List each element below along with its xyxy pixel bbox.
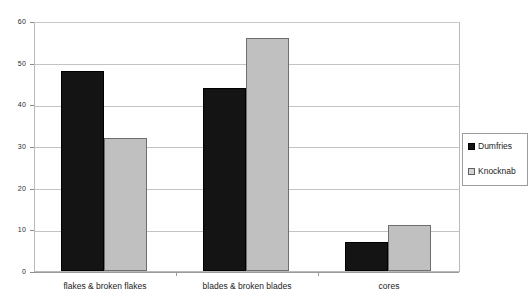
bar-dumfries-cores [345,242,388,271]
bar-knocknab-flakes [104,138,147,271]
bar-chart: 60 50 40 30 20 10 0 flakes & broken flak… [0,0,528,305]
x-tick-1 [176,272,177,276]
legend-swatch-dumfries-icon [468,143,475,150]
x-category-label-blades: blades & broken blades [176,281,318,291]
legend-label-knocknab: Knocknab [478,167,516,176]
bar-knocknab-blades [246,38,289,271]
y-tick-label-50: 50 [0,60,26,68]
chart-legend: Dumfries Knocknab [462,133,528,186]
y-tick-label-40: 40 [0,101,26,109]
y-tick-label-60: 60 [0,18,26,26]
bar-knocknab-cores [388,225,431,271]
legend-swatch-knocknab-icon [468,168,475,175]
legend-item-knocknab: Knocknab [468,167,516,176]
x-category-label-cores: cores [318,281,460,291]
gridline-0 [35,272,459,273]
legend-label-dumfries: Dumfries [478,142,512,151]
y-tick-label-0: 0 [0,268,26,276]
bar-dumfries-flakes [61,71,104,271]
y-tick-label-10: 10 [0,226,26,234]
y-tick-label-20: 20 [0,185,26,193]
plot-area [34,22,460,272]
x-category-label-flakes: flakes & broken flakes [34,281,176,291]
x-tick-2 [318,272,319,276]
legend-item-dumfries: Dumfries [468,142,512,151]
bar-dumfries-blades [203,88,246,271]
y-tick-label-30: 30 [0,143,26,151]
